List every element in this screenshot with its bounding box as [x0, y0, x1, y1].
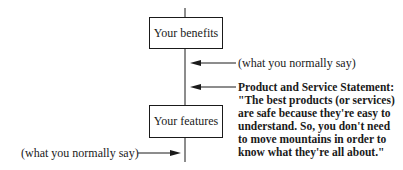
statement-line: to move mountains in order to [238, 133, 395, 146]
features-box: Your features [149, 105, 223, 138]
statement-title: Product and Service Statement: [238, 81, 395, 94]
statement-line: understand. So, you don't need [238, 120, 395, 133]
features-box-label: Your features [154, 114, 218, 129]
arrow-right-icon [170, 150, 181, 156]
benefits-box: Your benefits [149, 17, 223, 49]
statement-line: "The best products (or services) [238, 94, 395, 107]
normally-say-label-lower: (what you normally say) [21, 147, 139, 160]
product-service-statement: Product and Service Statement: "The best… [238, 81, 395, 159]
statement-line: are safe because they're easy to [238, 107, 395, 120]
arrow-left-icon [190, 84, 201, 90]
normally-say-label-upper: (what you normally say) [238, 57, 356, 70]
statement-line: know what they're all about." [238, 146, 395, 159]
arrow-left-icon [190, 60, 201, 66]
benefits-box-label: Your benefits [154, 26, 218, 41]
